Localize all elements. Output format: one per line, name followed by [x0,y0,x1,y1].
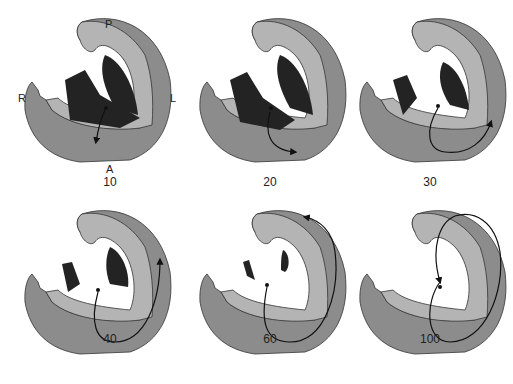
label-right: R [18,92,26,104]
heart-diagram-20 [185,0,355,192]
label-anterior: A [106,163,113,175]
label-posterior: P [105,18,112,30]
panel-20: 20 [185,0,355,192]
panel-label: 40 [25,332,195,346]
panel-60: 60 [185,192,355,384]
heart-diagram-30 [345,0,513,192]
heart-diagram-10 [10,0,180,192]
heart-diagram-40 [10,192,180,384]
panel-label: 20 [185,175,355,189]
panel-10: P R L A 10 [10,0,180,192]
heart-diagram-60 [185,192,355,384]
panel-label: 100 [345,332,513,346]
panel-label: 30 [345,175,513,189]
panel-100: 100 [345,192,513,384]
heart-diagram-100 [345,192,513,384]
panel-label: 10 [25,175,195,189]
panel-40: 40 [10,192,180,384]
label-left: L [170,92,176,104]
panel-30: 30 [345,0,513,192]
panel-label: 60 [185,332,355,346]
